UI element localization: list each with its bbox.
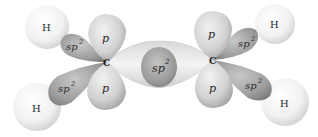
carbon-right-label: C (209, 56, 216, 66)
hydrogen-right-top: H (255, 4, 295, 44)
svg-text:p: p (102, 82, 109, 95)
svg-text:H: H (32, 103, 41, 114)
svg-text:2: 2 (78, 38, 83, 46)
svg-text:sp: sp (245, 80, 257, 91)
svg-text:2: 2 (70, 80, 75, 88)
svg-text:p: p (102, 32, 109, 45)
svg-text:sp: sp (58, 83, 70, 94)
center-sp2-label: sp (152, 62, 165, 75)
svg-text:H: H (270, 19, 279, 30)
ethylene-orbital-diagram: sp 2 H H sp 2 sp 2 p p C H H (0, 0, 318, 137)
svg-text:2: 2 (257, 77, 262, 85)
svg-text:sp: sp (66, 41, 78, 52)
center-sp2-sup: 2 (164, 58, 170, 66)
svg-text:sp: sp (238, 38, 250, 49)
svg-text:H: H (42, 22, 51, 33)
svg-text:p: p (208, 28, 215, 41)
carbon-left-label: C (103, 58, 110, 68)
svg-text:H: H (280, 98, 289, 109)
svg-text:p: p (209, 82, 216, 95)
svg-text:2: 2 (250, 35, 255, 43)
